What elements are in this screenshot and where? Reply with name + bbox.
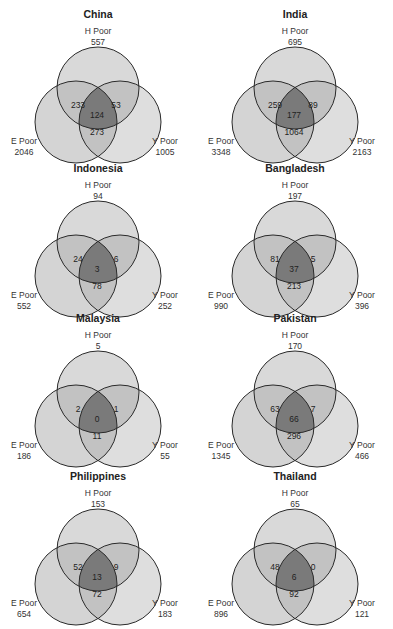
e-poor-label: E Poor [11, 598, 37, 608]
country-title: China [83, 8, 112, 20]
he-overlap-value: 52 [73, 562, 83, 572]
e-poor-total: 654 [17, 609, 31, 619]
h-poor-total: 5 [96, 341, 101, 351]
venn-circles [232, 351, 358, 467]
hey-overlap-value: 13 [92, 572, 102, 582]
h-poor-label: H Poor [85, 330, 112, 340]
venn-circles [35, 351, 161, 467]
venn-circles [232, 201, 358, 317]
y-poor-label: Y Poor [152, 290, 178, 300]
e-poor-label: E Poor [208, 440, 234, 450]
venn-circles [232, 509, 358, 625]
y-poor-total: 2163 [353, 147, 372, 157]
country-title: Philippines [70, 470, 126, 482]
h-poor-total: 557 [91, 37, 105, 47]
hy-overlap-value: 1 [114, 404, 119, 414]
e-poor-total: 186 [17, 451, 31, 461]
he-overlap-value: 2 [76, 404, 81, 414]
venn-circles [35, 509, 161, 625]
e-poor-total: 1345 [212, 451, 231, 461]
country-title: Pakistan [273, 312, 316, 324]
y-poor-total: 466 [355, 451, 369, 461]
ey-overlap-value: 92 [289, 589, 299, 599]
hey-overlap-value: 124 [90, 110, 104, 120]
venn-diagram: Thailand H Poor 65 E Poor 896 Y Poor 121… [197, 466, 393, 621]
venn-circles [35, 201, 161, 317]
venn-diagram: Bangladesh H Poor 197 E Poor 990 Y Poor … [197, 158, 393, 313]
country-title: Thailand [273, 470, 316, 482]
h-poor-total: 94 [93, 191, 103, 201]
he-overlap-value: 48 [270, 562, 280, 572]
venn-diagram: India H Poor 695 E Poor 3348 Y Poor 2163… [197, 4, 393, 159]
e-poor-total: 3348 [212, 147, 231, 157]
e-poor-label: E Poor [208, 136, 234, 146]
ey-overlap-value: 72 [92, 589, 102, 599]
h-poor-total: 170 [288, 341, 302, 351]
he-overlap-value: 24 [73, 254, 83, 264]
venn-diagram: Indonesia H Poor 94 E Poor 552 Y Poor 25… [0, 158, 196, 313]
he-overlap-value: 63 [270, 404, 280, 414]
y-poor-label: Y Poor [152, 136, 178, 146]
ey-overlap-value: 273 [90, 127, 104, 137]
hey-overlap-value: 6 [292, 572, 297, 582]
hy-overlap-value: 53 [111, 100, 121, 110]
hey-overlap-value: 3 [95, 264, 100, 274]
he-overlap-value: 233 [71, 100, 85, 110]
y-poor-label: Y Poor [152, 440, 178, 450]
h-poor-total: 153 [91, 499, 105, 509]
h-poor-label: H Poor [85, 26, 112, 36]
venn-diagram: China H Poor 557 E Poor 2046 Y Poor 1005… [0, 4, 196, 159]
country-title: Malaysia [76, 312, 120, 324]
country-title: Bangladesh [265, 162, 325, 174]
e-poor-total: 2046 [15, 147, 34, 157]
venn-diagram: Philippines H Poor 153 E Poor 654 Y Poor… [0, 466, 196, 621]
y-poor-label: Y Poor [349, 440, 375, 450]
ey-overlap-value: 11 [93, 431, 102, 441]
hey-overlap-value: 0 [95, 414, 100, 424]
hey-overlap-value: 177 [287, 110, 301, 120]
he-overlap-value: 259 [268, 100, 282, 110]
country-title: Indonesia [73, 162, 122, 174]
hy-overlap-value: 0 [311, 562, 316, 572]
e-poor-label: E Poor [11, 290, 37, 300]
e-poor-label: E Poor [11, 440, 37, 450]
hey-overlap-value: 66 [289, 414, 299, 424]
y-poor-label: Y Poor [349, 598, 375, 608]
ey-overlap-value: 78 [92, 281, 102, 291]
h-poor-label: H Poor [85, 180, 112, 190]
venn-circles [232, 47, 358, 163]
h-poor-label: H Poor [282, 180, 309, 190]
country-title: India [283, 8, 308, 20]
h-poor-total: 65 [290, 499, 300, 509]
hey-overlap-value: 37 [289, 264, 299, 274]
y-poor-total: 121 [355, 609, 369, 619]
venn-circles [35, 47, 161, 163]
venn-diagram: Malaysia H Poor 5 E Poor 186 Y Poor 55 2… [0, 308, 196, 463]
e-poor-label: E Poor [11, 136, 37, 146]
y-poor-label: Y Poor [349, 290, 375, 300]
hy-overlap-value: 5 [311, 254, 316, 264]
ey-overlap-value: 1064 [285, 127, 304, 137]
hy-overlap-value: 6 [114, 254, 119, 264]
h-poor-label: H Poor [282, 26, 309, 36]
venn-diagram: Pakistan H Poor 170 E Poor 1345 Y Poor 4… [197, 308, 393, 463]
hy-overlap-value: 89 [308, 100, 318, 110]
h-poor-label: H Poor [282, 330, 309, 340]
he-overlap-value: 81 [270, 254, 280, 264]
ey-overlap-value: 296 [287, 431, 301, 441]
h-poor-total: 695 [288, 37, 302, 47]
hy-overlap-value: 9 [114, 562, 119, 572]
h-poor-total: 197 [288, 191, 302, 201]
y-poor-total: 55 [160, 451, 170, 461]
y-poor-label: Y Poor [349, 136, 375, 146]
hy-overlap-value: 7 [311, 404, 316, 414]
ey-overlap-value: 213 [287, 281, 301, 291]
e-poor-label: E Poor [208, 598, 234, 608]
y-poor-total: 1005 [156, 147, 175, 157]
y-poor-total: 183 [158, 609, 172, 619]
e-poor-label: E Poor [208, 290, 234, 300]
e-poor-total: 896 [214, 609, 228, 619]
y-poor-label: Y Poor [152, 598, 178, 608]
venn-grid: China H Poor 557 E Poor 2046 Y Poor 1005… [0, 0, 393, 629]
h-poor-label: H Poor [282, 488, 309, 498]
